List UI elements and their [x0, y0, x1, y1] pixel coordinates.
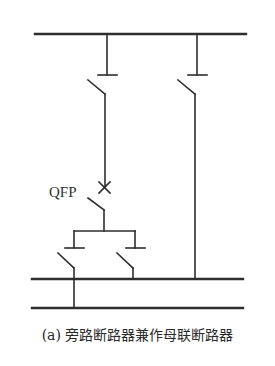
single-line-diagram: QFP — [0, 0, 275, 366]
right-sub-disconnector-icon — [117, 231, 145, 279]
left-sub-disconnector-icon — [58, 231, 84, 308]
figure-caption: (a) 旁路断路器兼作母联断路器 — [0, 324, 275, 344]
breaker-label: QFP — [49, 184, 77, 200]
right-disconnector-icon — [178, 34, 207, 94]
breaker-lower-disconnector-icon — [88, 198, 104, 231]
left-disconnector-icon — [88, 34, 117, 94]
